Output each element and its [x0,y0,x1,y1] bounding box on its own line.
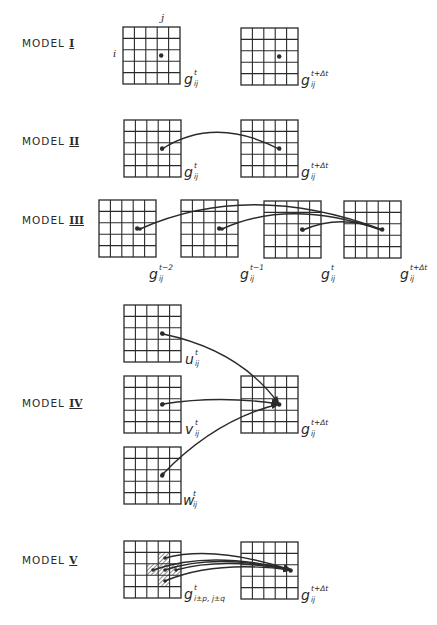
variable-symbol: g [184,71,193,87]
source-dot [174,568,178,572]
index-subscript: ij [311,173,315,181]
source-dot [138,227,142,231]
source-dot [163,556,167,560]
axis-label-j: j [161,12,164,23]
grid-frame [241,376,298,433]
time-superscript: t [195,419,198,427]
index-subscript: ij [410,275,414,283]
dependency-arrow [303,222,379,230]
variable-symbol: u [185,351,194,367]
model-1-label: MODEL I [22,38,74,49]
dependency-arrow [162,132,281,150]
time-superscript: t+Δt [311,419,328,427]
variable-symbol: g [400,266,409,282]
source-dot [161,472,165,476]
variable-symbol: g [301,587,310,603]
model-3-grid-0-label: gt−2ij [149,266,158,282]
model-numeral: II [69,135,79,147]
variable-symbol: g [301,164,310,180]
model-4-grid-3 [241,376,298,433]
source-dot [161,332,165,336]
time-superscript: t+Δt [311,70,328,78]
grid-frame [241,28,298,85]
time-superscript: t−1 [250,264,264,272]
model-3-grid-2-label: gtij [321,266,330,282]
index-subscript: ij [193,501,197,509]
model-3-label: MODEL III [22,215,84,226]
grid-frame [344,201,401,258]
model-1-grid-0 [123,27,180,84]
time-superscript: t+Δt [311,585,328,593]
model-3-grid-0 [99,200,156,257]
grid-frame [124,376,181,433]
time-superscript: t+Δt [311,162,328,170]
variable-symbol: v [185,421,193,437]
source-dot [161,402,165,406]
model-2-grid-0 [124,120,181,177]
grid-frame [124,305,181,362]
index-subscript: ij [250,275,254,283]
time-superscript: t+Δt [410,264,427,272]
time-superscript: t [194,162,197,170]
model-4-grid-1 [124,376,181,433]
model-2-grid-1-label: gt+Δtij [301,164,310,180]
model-numeral: I [69,37,74,49]
model-2-label: MODEL II [22,136,79,147]
model-3-grid-1-label: gt−1ij [240,266,249,282]
index-subscript: ij [311,430,315,438]
model-1-grid-1 [241,28,298,85]
diagram-canvas [0,0,437,625]
model-4-grid-1-label: vtij [185,421,193,437]
model-4-label: MODEL IV [22,398,82,409]
variable-symbol: g [184,164,193,180]
index-subscript: ij [311,81,315,89]
model-1-grid-0-label: gtij [184,71,193,87]
index-subscript: ij [311,596,315,604]
grids-layer [99,27,401,599]
variable-symbol: g [301,72,310,88]
model-numeral: IV [69,397,82,409]
variable-symbol: g [240,266,249,282]
source-dot [160,147,164,151]
cell-dot [277,54,281,58]
model-5-grid-0-label: gti±p, j±q [184,586,193,602]
index-subscript: ij [195,430,199,438]
time-superscript: t [331,264,334,272]
time-superscript: t [195,349,198,357]
time-superscript: t [194,69,197,77]
time-superscript: t [193,490,196,498]
model-2-grid-0-label: gtij [184,164,193,180]
index-subscript: i±p, j±q [194,595,225,603]
grid-frame [99,200,156,257]
index-subscript: ij [159,275,163,283]
grid-frame [123,27,180,84]
model-3-grid-3 [344,201,401,258]
variable-symbol: g [301,421,310,437]
axis-label-i: i [113,48,116,59]
source-dot [301,228,305,232]
dependency-arrow [140,205,383,230]
model-5-grid-1-label: gt+Δtij [301,587,310,603]
index-subscript: ij [195,360,199,368]
source-dot [151,568,155,572]
model-3-grid-3-label: gt+Δtij [400,266,409,282]
index-subscript: ij [194,80,198,88]
grid-frame [124,447,181,504]
cell-dot [159,53,163,57]
model-word: MODEL [22,214,65,226]
model-4-grid-0 [124,305,181,362]
variable-symbol: g [321,266,330,282]
variable-symbol: g [149,266,158,282]
model-4-grid-0-label: utij [185,351,194,367]
cell-dot [288,568,292,572]
time-superscript: t−2 [159,264,173,272]
model-word: MODEL [22,37,65,49]
model-numeral: V [69,554,77,566]
connections-layer [140,132,383,581]
model-5-label: MODEL V [22,555,77,566]
model-numeral: III [69,214,84,226]
index-subscript: ij [331,275,335,283]
index-subscript: ij [194,173,198,181]
model-4-grid-2-label: wtij [183,492,194,508]
source-dot [220,227,224,231]
